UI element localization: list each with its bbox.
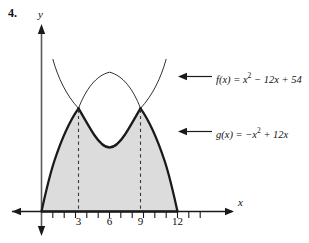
x-axis-left-arrow-icon bbox=[12, 208, 21, 215]
figure-container: 4. bbox=[0, 0, 309, 243]
y-axis-label: y bbox=[38, 8, 43, 20]
shaded-region bbox=[42, 108, 178, 211]
y-axis-up-arrow-icon bbox=[38, 24, 45, 34]
x-axis-right-arrow-icon bbox=[225, 208, 234, 215]
leader-arrow-g-icon bbox=[178, 128, 187, 135]
equation-g-prefix: g(x) = −x bbox=[216, 129, 257, 140]
y-axis-down-arrow-icon bbox=[38, 226, 45, 236]
x-tick-label-3: 3 bbox=[69, 215, 89, 227]
problem-number: 4. bbox=[8, 6, 17, 21]
x-tick-label-6: 6 bbox=[100, 215, 120, 227]
leader-arrow-f-icon bbox=[178, 73, 187, 80]
equation-f-suffix: − 12x + 54 bbox=[251, 74, 301, 85]
x-tick-label-12: 12 bbox=[168, 215, 188, 227]
curve-g-upper-arc bbox=[79, 72, 141, 108]
equation-g-suffix: + 12x bbox=[261, 129, 289, 140]
x-tick-label-9: 9 bbox=[131, 215, 151, 227]
graph-plot bbox=[0, 0, 309, 243]
equation-f-prefix: f(x) = x bbox=[216, 74, 248, 85]
x-axis-label: x bbox=[238, 196, 243, 208]
equation-label-f: f(x) = x2 − 12x + 54 bbox=[216, 71, 302, 85]
equation-label-g: g(x) = −x2 + 12x bbox=[216, 126, 288, 140]
